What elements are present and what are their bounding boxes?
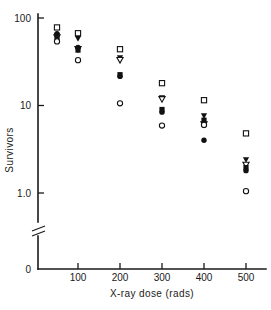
x-tick-label-100: 100	[70, 272, 87, 283]
data-point-markers	[54, 25, 249, 194]
marker-filled-circle-300	[159, 109, 164, 114]
y-axis-tick-labels: 1.010100	[14, 13, 31, 199]
axis-break-icon	[32, 226, 45, 236]
y-axis-ticks	[38, 18, 44, 193]
marker-filled-circle-50	[54, 31, 59, 36]
marker-open-circle-50	[54, 39, 59, 44]
y-tick-label-1: 1.0	[17, 188, 31, 199]
y-axis-origin-label: 0	[25, 264, 31, 275]
x-axis-ticks	[78, 263, 246, 269]
marker-open-circle-300	[159, 123, 164, 128]
marker-open-circle-500	[243, 189, 248, 194]
marker-filled-triangle-down-100	[75, 36, 81, 42]
axes	[32, 14, 266, 269]
marker-open-square-300	[159, 81, 164, 86]
marker-open-circle-200	[117, 101, 122, 106]
marker-filled-circle-200	[117, 74, 122, 79]
marker-open-circle-400	[201, 122, 206, 127]
x-tick-label-200: 200	[112, 272, 129, 283]
y-tick-label-10: 10	[20, 100, 32, 111]
marker-open-square-500	[243, 131, 248, 136]
y-axis-title: Survivors	[4, 127, 15, 172]
marker-open-square-50	[54, 25, 59, 30]
marker-open-square-200	[117, 47, 122, 52]
marker-open-circle-100	[75, 58, 80, 63]
x-tick-label-400: 400	[196, 272, 213, 283]
x-axis-tick-labels: 100200300400500	[70, 272, 255, 283]
y-tick-label-100: 100	[14, 13, 31, 24]
x-tick-label-300: 300	[154, 272, 171, 283]
marker-open-triangle-down-200	[117, 58, 123, 64]
marker-open-square-400	[201, 98, 206, 103]
marker-filled-circle-100	[75, 45, 80, 50]
chart-canvas: 1.010100 100200300400500 0 X-ray dose (r…	[0, 0, 271, 310]
marker-filled-circle-500	[243, 168, 248, 173]
marker-filled-circle-400	[201, 138, 206, 143]
marker-open-triangle-down-300	[159, 97, 165, 103]
x-tick-label-500: 500	[238, 272, 255, 283]
x-axis-title: X-ray dose (rads)	[110, 288, 194, 299]
figure-scatter-chart: 1.010100 100200300400500 0 X-ray dose (r…	[0, 0, 271, 310]
marker-open-square-100	[75, 31, 80, 36]
